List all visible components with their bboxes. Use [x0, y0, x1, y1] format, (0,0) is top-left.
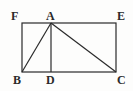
segment-ab — [22, 23, 51, 72]
vertex-label-d: D — [46, 74, 55, 86]
vertex-label-b: B — [13, 74, 21, 86]
vertex-label-f: F — [11, 10, 18, 22]
segment-ac — [51, 23, 116, 72]
vertex-label-e: E — [117, 10, 125, 22]
vertex-label-c: C — [117, 74, 126, 86]
geometry-figure: F A E B D C — [0, 0, 133, 91]
vertex-label-a: A — [46, 10, 55, 22]
